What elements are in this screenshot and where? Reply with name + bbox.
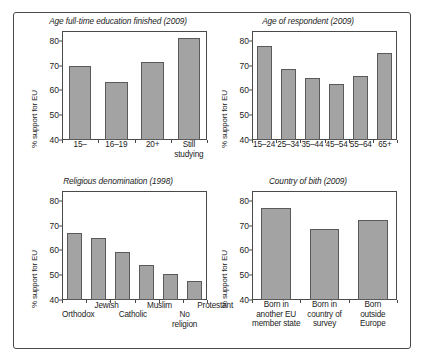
x-tick-mark — [207, 300, 208, 303]
y-tick-mark — [249, 275, 252, 276]
x-tick-mark — [325, 140, 326, 143]
y-tick-label: 50 — [240, 270, 249, 280]
y-tick-label: 40 — [240, 135, 249, 145]
y-axis-label-country-of-birth: % support for EU — [220, 250, 229, 308]
bar[interactable] — [257, 46, 272, 140]
bar-slot — [135, 31, 171, 140]
x-tick-mark — [349, 300, 350, 303]
bar[interactable] — [141, 62, 163, 140]
y-tick-label: 50 — [50, 110, 59, 120]
bar-slot — [135, 191, 159, 300]
x-tick-mark — [397, 140, 398, 143]
bar-slot — [110, 191, 134, 300]
chart-panel-country-of-birth: Country of bith (2009) % support for EU … — [212, 176, 404, 346]
bar[interactable] — [105, 82, 127, 140]
chart-panel-education: Age full-time education finished (2009) … — [22, 16, 214, 181]
bar[interactable] — [281, 69, 296, 140]
chart-panel-religion: Religious denomination (1998) % support … — [22, 176, 214, 346]
y-tick-label: 60 — [240, 85, 249, 95]
bar[interactable] — [139, 265, 154, 300]
bar-slot — [159, 191, 183, 300]
y-tick-mark — [59, 275, 62, 276]
x-tick-mark — [86, 300, 87, 303]
y-tick-label: 70 — [50, 221, 59, 231]
x-tick-label: 45–54 — [325, 140, 349, 150]
x-tick-label: 55–64 — [349, 140, 373, 150]
y-tick-mark — [249, 40, 252, 41]
plot-area-religion: 4050607080 OrthodoxJewishCatholicMuslimN… — [62, 191, 207, 300]
y-tick-mark — [59, 250, 62, 251]
x-tick-mark — [349, 140, 350, 143]
bar-slot — [349, 31, 373, 140]
bar[interactable] — [305, 78, 320, 140]
y-tick-mark — [59, 65, 62, 66]
bar[interactable] — [69, 66, 91, 140]
y-tick-label: 70 — [240, 61, 249, 71]
y-tick-mark — [249, 250, 252, 251]
bar[interactable] — [163, 274, 178, 300]
x-tick-mark — [159, 300, 160, 303]
bar-slot — [252, 191, 300, 300]
y-tick-label: 60 — [240, 245, 249, 255]
bar[interactable] — [178, 38, 200, 140]
x-tick-label: Born in another EU member state — [252, 300, 300, 329]
bar[interactable] — [358, 220, 388, 301]
y-tick-label: 80 — [240, 36, 249, 46]
x-tick-label: Still studying — [171, 140, 207, 159]
bar[interactable] — [310, 229, 340, 300]
bar-slot — [62, 31, 98, 140]
y-tick-label: 50 — [240, 110, 249, 120]
chart-title-age: Age of respondent (2009) — [212, 16, 404, 26]
x-tick-label: 16–19 — [98, 140, 134, 159]
x-tick-mark — [110, 300, 111, 303]
bar[interactable] — [91, 238, 106, 300]
x-tick-label: Born outside Europe — [349, 300, 397, 329]
plot-area-education: 4050607080 15–16–1920+Still studying — [62, 31, 207, 140]
y-tick-label: 80 — [50, 196, 59, 206]
bar-slot — [86, 191, 110, 300]
bar-slot — [183, 191, 207, 300]
bar-group-education — [62, 31, 207, 140]
x-axis-country-of-birth: Born in another EU member stateBorn in c… — [252, 300, 397, 329]
x-tick-mark — [300, 300, 301, 303]
x-tick-label: 15–24 — [252, 140, 276, 150]
bar-slot — [62, 191, 86, 300]
x-tick-label: Jewish — [94, 300, 118, 329]
y-tick-label: 70 — [240, 221, 249, 231]
bar[interactable] — [329, 84, 344, 140]
y-tick-label: 50 — [50, 270, 59, 280]
y-tick-mark — [249, 200, 252, 201]
bar[interactable] — [115, 252, 130, 300]
chart-title-education: Age full-time education finished (2009) — [22, 16, 214, 26]
x-tick-mark — [62, 140, 63, 143]
x-tick-label: Catholic — [119, 300, 147, 329]
plot-area-country-of-birth: 4050607080 Born in another EU member sta… — [252, 191, 397, 300]
x-tick-label: 65+ — [373, 140, 397, 150]
y-tick-mark — [59, 115, 62, 116]
x-tick-label: Born in country of survey — [300, 300, 348, 329]
x-tick-mark — [276, 140, 277, 143]
bar[interactable] — [377, 53, 392, 140]
x-axis-education: 15–16–1920+Still studying — [62, 140, 207, 159]
y-tick-mark — [249, 115, 252, 116]
figure-frame: Age full-time education finished (2009) … — [13, 12, 411, 349]
plot-area-age: 4050607080 15–2425–3435–4445–5455–6465+ — [252, 31, 397, 140]
x-axis-religion: OrthodoxJewishCatholicMuslimNo religionP… — [62, 300, 207, 329]
bar[interactable] — [67, 233, 82, 300]
bar[interactable] — [353, 76, 368, 140]
bar-slot — [276, 31, 300, 140]
x-tick-mark — [397, 300, 398, 303]
y-tick-mark — [59, 200, 62, 201]
bar[interactable] — [187, 281, 202, 300]
bar-group-age — [252, 31, 397, 140]
y-tick-label: 40 — [50, 295, 59, 305]
bar[interactable] — [261, 208, 291, 300]
y-axis-label-religion: % support for EU — [30, 250, 39, 308]
y-tick-mark — [249, 225, 252, 226]
y-axis-label-age: % support for EU — [220, 90, 229, 148]
chart-panel-age: Age of respondent (2009) % support for E… — [212, 16, 404, 181]
x-axis-age: 15–2425–3435–4445–5455–6465+ — [252, 140, 397, 150]
bar-slot — [300, 191, 348, 300]
x-tick-mark — [183, 300, 184, 303]
y-tick-mark — [249, 65, 252, 66]
